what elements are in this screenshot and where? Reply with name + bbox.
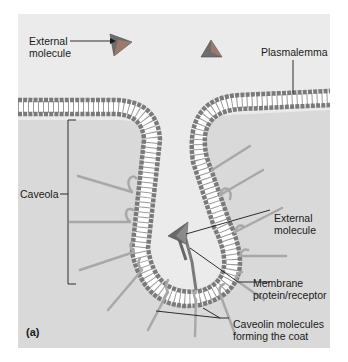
label-line: protein/receptor xyxy=(253,289,327,301)
label-line: External xyxy=(274,212,316,224)
label-membrane-protein: Membrane protein/receptor xyxy=(253,277,327,301)
label-line: Membrane xyxy=(253,277,327,289)
label-line: Caveolin molecules xyxy=(233,318,324,330)
label-line: molecule xyxy=(274,224,316,236)
label-caveolin: Caveolin molecules forming the coat xyxy=(233,318,324,342)
caveola-diagram: External molecule Plasmalemma Caveola Ex… xyxy=(0,0,348,362)
label-external-molecule-inner: External molecule xyxy=(274,212,316,236)
label-line: molecule xyxy=(29,47,71,59)
label-plasmalemma: Plasmalemma xyxy=(261,46,328,58)
label-line: External xyxy=(29,35,71,47)
label-external-molecule-top: External molecule xyxy=(29,35,71,59)
panel-letter: (a) xyxy=(26,326,39,338)
label-caveola: Caveola xyxy=(20,188,59,200)
label-line: forming the coat xyxy=(233,330,324,342)
